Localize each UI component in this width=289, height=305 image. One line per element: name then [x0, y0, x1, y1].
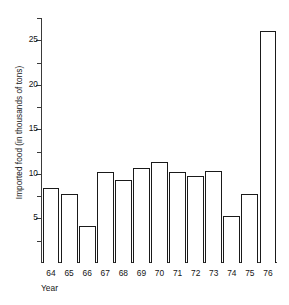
bar-chart-figure: Imported food (in thousands of tons) 510… [0, 0, 289, 305]
y-tick-label: 20 [29, 80, 38, 89]
bar-66 [79, 226, 96, 263]
x-tick-label-70: 70 [155, 268, 164, 278]
x-tick-label-76: 76 [263, 268, 272, 278]
x-tick-label-72: 72 [191, 268, 200, 278]
bar-74 [223, 216, 240, 263]
y-tick-label: 10 [29, 169, 38, 178]
bar-65 [61, 194, 78, 263]
bar-75 [241, 194, 258, 263]
x-tick-label-65: 65 [64, 268, 73, 278]
y-tick-label: 25 [29, 35, 38, 44]
bar-69 [133, 168, 150, 263]
x-axis-tick-labels: 64656667686970717273747576 [41, 268, 277, 282]
x-tick-label-68: 68 [119, 268, 128, 278]
x-tick-label-73: 73 [209, 268, 218, 278]
bar-67 [97, 172, 114, 263]
x-axis-title: Year [41, 283, 58, 293]
bar-68 [115, 180, 132, 263]
x-tick-label-66: 66 [83, 268, 92, 278]
bar-64 [43, 188, 60, 263]
bar-73 [205, 171, 222, 263]
x-tick-label-75: 75 [245, 268, 254, 278]
x-tick-label-74: 74 [227, 268, 236, 278]
x-tick-label-67: 67 [101, 268, 110, 278]
bar-series [42, 18, 277, 263]
y-tick-label: 5 [33, 213, 38, 222]
x-tick-label-69: 69 [137, 268, 146, 278]
x-tick-label-64: 64 [46, 268, 55, 278]
bar-70 [151, 162, 168, 263]
plot-area: 510152025 [41, 18, 277, 263]
bar-72 [187, 176, 204, 263]
y-tick-label: 15 [29, 124, 38, 133]
bar-76 [260, 31, 277, 263]
y-axis-title: Imported food (in thousands of tons) [15, 28, 24, 238]
x-tick-label-71: 71 [173, 268, 182, 278]
bar-71 [169, 172, 186, 263]
